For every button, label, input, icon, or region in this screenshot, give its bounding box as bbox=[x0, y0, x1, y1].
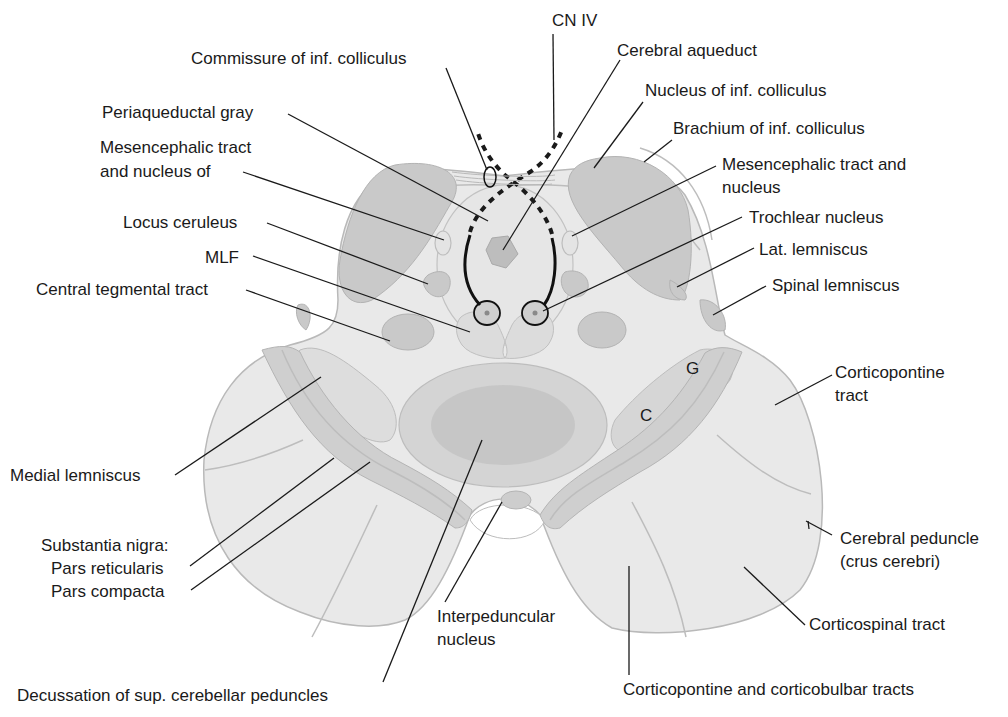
central-tegmental-tract-right bbox=[578, 312, 626, 348]
label-corticopontine-corticobulbar: Corticopontine and corticobulbar tracts bbox=[623, 680, 914, 699]
crus-marker: C bbox=[640, 406, 652, 425]
label-mesencephalic-right-2: nucleus bbox=[722, 178, 781, 197]
label-brachium-inf-colliculus: Brachium of inf. colliculus bbox=[673, 119, 865, 138]
label-cn-iv: CN IV bbox=[552, 11, 598, 30]
label-commissure-inf-colliculus: Commissure of inf. colliculus bbox=[191, 49, 406, 68]
label-mesencephalic-right-1: Mesencephalic tract and bbox=[722, 155, 906, 174]
label-cerebral-aqueduct: Cerebral aqueduct bbox=[617, 41, 757, 60]
label-nucleus-inf-colliculus: Nucleus of inf. colliculus bbox=[645, 81, 826, 100]
label-locus-ceruleus: Locus ceruleus bbox=[123, 213, 237, 232]
label-mlf: MLF bbox=[205, 248, 239, 267]
mesencephalic-nucleus-left bbox=[435, 231, 451, 255]
label-substantia-nigra: Substantia nigra: bbox=[41, 536, 169, 555]
label-interpeduncular-2: nucleus bbox=[437, 630, 496, 649]
genu-marker: G bbox=[686, 359, 699, 378]
label-trochlear-nucleus: Trochlear nucleus bbox=[749, 208, 884, 227]
trochlear-nucleus-left-center bbox=[485, 311, 490, 316]
label-pars-reticularis: Pars reticularis bbox=[51, 559, 163, 578]
label-lat-lemniscus: Lat. lemniscus bbox=[759, 240, 868, 259]
central-tegmental-tract-left bbox=[382, 314, 434, 350]
label-periaqueductal-gray: Periaqueductal gray bbox=[102, 103, 254, 122]
label-mesencephalic-left-1: Mesencephalic tract bbox=[100, 138, 251, 157]
label-corticopontine-2: tract bbox=[835, 386, 868, 405]
label-interpeduncular-1: Interpeduncular bbox=[437, 607, 555, 626]
label-mesencephalic-left-2: and nucleus of bbox=[100, 162, 211, 181]
label-decussation-sup-cerebellar: Decussation of sup. cerebellar peduncles bbox=[17, 686, 328, 705]
trochlear-nucleus-right-center bbox=[533, 311, 538, 316]
midbrain-cross-section-diagram: G C CN IV Co bbox=[0, 0, 1008, 717]
decussation-core bbox=[431, 385, 575, 465]
label-spinal-lemniscus: Spinal lemniscus bbox=[772, 276, 900, 295]
label-cerebral-peduncle-2: (crus cerebri) bbox=[840, 552, 940, 571]
label-cerebral-peduncle-1: Cerebral peduncle bbox=[840, 529, 979, 548]
label-medial-lemniscus: Medial lemniscus bbox=[10, 466, 140, 485]
interpeduncular-fossa bbox=[470, 505, 545, 539]
label-corticopontine-1: Corticopontine bbox=[835, 363, 945, 382]
label-corticospinal-tract: Corticospinal tract bbox=[809, 615, 945, 634]
label-central-tegmental-tract: Central tegmental tract bbox=[36, 280, 208, 299]
interpeduncular-nucleus bbox=[501, 491, 531, 509]
label-pars-compacta: Pars compacta bbox=[51, 582, 165, 601]
